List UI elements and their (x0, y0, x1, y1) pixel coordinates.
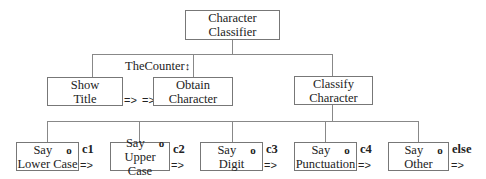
option-name: Upper Case (111, 150, 169, 178)
level1-bus (92, 54, 333, 55)
classify-down-connector (332, 105, 333, 122)
option-node-upper-case: Sayo Upper Case (110, 142, 170, 171)
flow-arrow-1: => (124, 94, 137, 106)
root-label-line2: Classifier (209, 25, 257, 39)
option-name: Digit (219, 157, 245, 171)
option-arrow-1: => (80, 159, 93, 171)
condition-c1: c1 (82, 142, 94, 156)
level2-bus (47, 121, 419, 122)
condition-c2: c2 (173, 142, 185, 156)
root-node-character-classifier: Character Classifier (185, 10, 280, 40)
condition-else: else (452, 142, 471, 156)
option-connector-3 (232, 121, 233, 142)
option-node-other: Sayo Other (388, 142, 449, 171)
condition-c4: c4 (360, 142, 372, 156)
option-arrow-3: => (264, 159, 277, 171)
option-connector-4 (325, 121, 326, 142)
option-node-digit: Sayo Digit (200, 142, 263, 171)
up-down-arrow-icon: ↕ (185, 60, 191, 72)
option-arrow-4: => (358, 159, 371, 171)
option-connector-5 (418, 121, 419, 142)
say-text: Say (217, 143, 236, 157)
obtain-character-connector (193, 54, 194, 77)
selection-marker-icon: o (344, 143, 350, 157)
show-title-line1: Show (71, 78, 99, 92)
node-show-title: Show Title (47, 77, 123, 106)
obtain-character-line1: Obtain (176, 78, 210, 92)
option-node-punctuation: Sayo Punctuation (294, 142, 357, 171)
root-label-line1: Character (208, 11, 257, 25)
show-title-line2: Title (73, 92, 96, 106)
say-text: Say (126, 136, 145, 150)
counter-label-text: TheCounter (125, 59, 185, 73)
condition-c3: c3 (266, 142, 278, 156)
obtain-character-line2: Character (169, 92, 218, 106)
say-text: Say (33, 143, 52, 157)
option-name: Punctuation (296, 157, 356, 171)
selection-marker-icon: o (250, 143, 256, 157)
say-text: Say (404, 143, 423, 157)
selection-marker-icon: o (66, 143, 72, 157)
node-classify-character: Classify Character (294, 76, 373, 105)
option-node-lower-case: Sayo Lower Case (16, 142, 79, 171)
root-connector (232, 39, 233, 54)
say-text: Say (311, 143, 330, 157)
classify-character-line2: Character (309, 91, 358, 105)
selection-marker-icon: o (159, 136, 165, 150)
classify-character-line1: Classify (313, 77, 354, 91)
selection-marker-icon: o (437, 143, 443, 157)
option-arrow-5: => (451, 159, 464, 171)
node-obtain-character: Obtain Character (153, 77, 233, 106)
option-name: Other (404, 157, 432, 171)
option-arrow-2: => (171, 159, 184, 171)
option-connector-1 (47, 121, 48, 142)
show-title-connector (92, 54, 93, 77)
classify-character-connector (332, 54, 333, 76)
option-name: Lower Case (17, 157, 77, 171)
counter-label: TheCounter↕ (125, 59, 190, 73)
